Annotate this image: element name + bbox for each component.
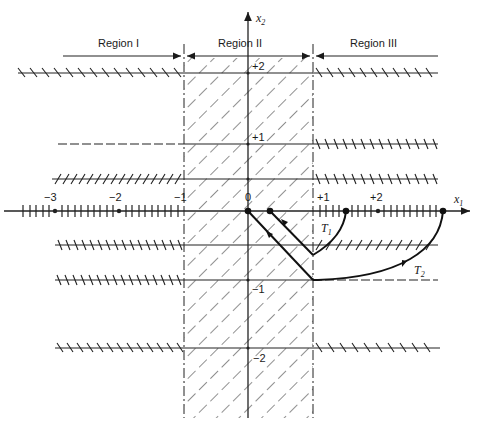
t1-start-point bbox=[343, 208, 350, 215]
x1-axis-label: x1 bbox=[453, 192, 463, 208]
phase-plane-figure: Region I Region II Region III x2 x1 −3 −… bbox=[0, 0, 479, 435]
x2-tick-plus-1: +1 bbox=[252, 131, 265, 143]
x1-tick-0: 0 bbox=[245, 191, 251, 203]
arrow-t2-curve bbox=[402, 260, 407, 267]
x1-tick-plus-1: +1 bbox=[317, 191, 330, 203]
x1-tick-plus-2: +2 bbox=[370, 191, 383, 203]
t1-label: T1 bbox=[321, 221, 332, 237]
x2-tick-minus-1: −1 bbox=[252, 283, 265, 295]
phase-plane-svg: Region I Region II Region III x2 x1 −3 −… bbox=[0, 0, 479, 435]
x1-tick-minus-3: −3 bbox=[44, 191, 57, 203]
x2-tick-minus-2: −2 bbox=[253, 352, 266, 364]
origin-point bbox=[245, 208, 252, 215]
x1-tick-minus-1: −1 bbox=[174, 191, 187, 203]
region-iii-label: Region III bbox=[350, 37, 397, 49]
t2-start-point bbox=[440, 208, 447, 215]
t2-label: T2 bbox=[414, 263, 425, 279]
x2-axis-label: x2 bbox=[255, 11, 265, 27]
region-i-label: Region I bbox=[98, 37, 139, 49]
region-ii-label: Region II bbox=[218, 37, 262, 49]
x1-tick-minus-2: −2 bbox=[109, 191, 122, 203]
x2-tick-plus-2: +2 bbox=[252, 60, 265, 72]
